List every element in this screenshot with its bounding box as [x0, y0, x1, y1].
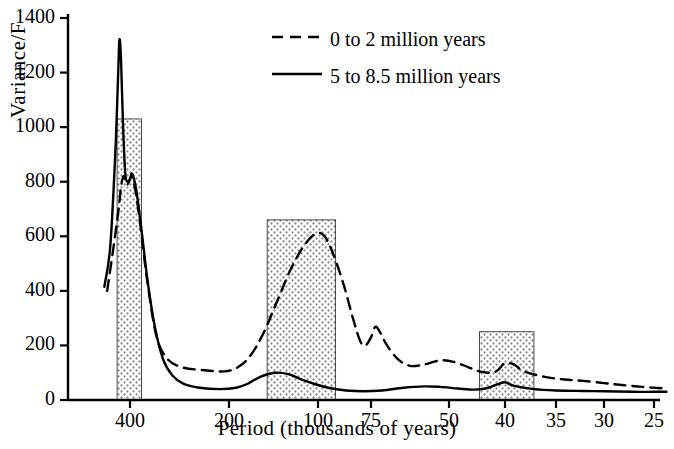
y-tick-label: 600: [0, 223, 55, 246]
x-tick-label: 75: [331, 409, 411, 432]
y-tick-label: 1200: [0, 60, 55, 83]
x-tick-label: 25: [614, 409, 674, 432]
y-tick-label: 400: [0, 278, 55, 301]
x-tick-label: 400: [90, 409, 170, 432]
y-tick-label: 0: [0, 387, 55, 410]
legend: [272, 37, 322, 74]
shaded-band-41k: [480, 332, 534, 400]
x-tick-label: 200: [189, 409, 269, 432]
y-tick-label: 800: [0, 169, 55, 192]
y-tick-label: 1400: [0, 5, 55, 28]
legend-label-1: 5 to 8.5 million years: [330, 65, 501, 88]
data-series: [104, 39, 666, 392]
chart-figure: Variance/F Period (thousands of years): [0, 0, 674, 449]
series-5-to-8.5-million-years: [104, 39, 666, 392]
y-tick-label: 1000: [0, 114, 55, 137]
x-axis-ticks: [130, 400, 654, 408]
shaded-bands: [117, 119, 534, 400]
legend-label-0: 0 to 2 million years: [330, 28, 486, 51]
y-tick-label: 200: [0, 332, 55, 355]
shaded-band-400k: [117, 119, 142, 400]
series-0-to-2-million-years: [107, 176, 666, 389]
